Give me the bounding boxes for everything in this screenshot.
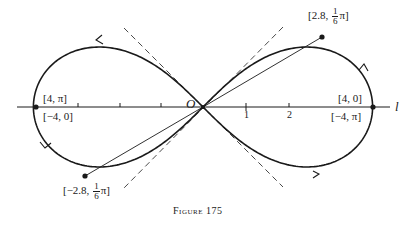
- arrow-icon: [359, 64, 368, 71]
- fraction: 16: [93, 182, 100, 201]
- point-label-right-bottom: [−4, π]: [331, 111, 361, 122]
- point-label-lower-left: [−2.8, 16π]: [63, 182, 110, 201]
- point-label-upper-right: [2.8, 16π]: [308, 7, 349, 26]
- tick-label-2: 2: [287, 110, 292, 120]
- fraction: 16: [332, 7, 339, 26]
- point-label-left-bottom: [−4, 0]: [43, 111, 73, 122]
- point-label-left-top: [4, π]: [43, 93, 67, 104]
- arrow-icon: [96, 35, 103, 44]
- polar-axis-label: l: [395, 100, 399, 113]
- tick-label-1: 1: [244, 110, 249, 120]
- arrow-icon: [313, 171, 319, 178]
- figure-caption: Figure 175: [173, 205, 222, 216]
- point-label-right-top: [4, 0]: [338, 93, 362, 104]
- origin-label: O: [186, 97, 195, 110]
